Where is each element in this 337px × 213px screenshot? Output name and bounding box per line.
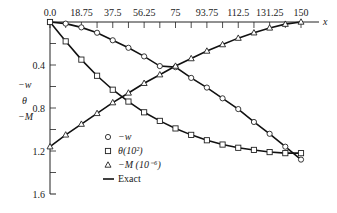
x-tick-label: 150 — [294, 7, 309, 18]
x-tick-label: 37.5 — [104, 7, 122, 18]
line-chart: x0.018.7537.556.257593.75112.5131.251500… — [0, 0, 337, 213]
y-tick-label: 1.6 — [33, 189, 46, 200]
x-tick-label: 93.75 — [196, 7, 219, 18]
square-marker — [173, 126, 178, 131]
circle-marker — [298, 157, 303, 162]
circle-marker — [236, 106, 241, 111]
square-marker — [47, 19, 52, 24]
circle-marker — [189, 75, 194, 80]
square-marker — [251, 147, 256, 152]
x-axis-label: x — [322, 16, 328, 27]
square-marker — [267, 149, 272, 154]
circle-marker — [63, 21, 68, 26]
square-marker — [189, 132, 194, 137]
square-marker — [79, 57, 84, 62]
square-marker — [94, 73, 99, 78]
circle-marker — [79, 25, 84, 30]
y-axis-label-theta: θ — [22, 95, 27, 106]
y-axis-label-m: −M — [18, 111, 34, 122]
circle-marker — [267, 131, 272, 136]
legend-label-m: −M (10⁻⁶) — [118, 159, 161, 171]
x-tick-label: 56.25 — [133, 7, 156, 18]
exact-curve — [50, 22, 301, 153]
circle-marker — [126, 45, 131, 50]
square-marker — [283, 151, 288, 156]
x-tick-label: 131.25 — [256, 7, 284, 18]
square-marker — [105, 148, 110, 153]
y-tick-label: 1.2 — [33, 146, 46, 157]
circle-marker — [105, 134, 110, 139]
y-tick-label: 0.8 — [33, 103, 46, 114]
y-axis-label-w: −w — [18, 79, 32, 90]
square-marker — [142, 110, 147, 115]
circle-marker — [220, 96, 225, 101]
square-marker — [220, 142, 225, 147]
x-tick-label: 0.0 — [44, 7, 57, 18]
square-marker — [157, 118, 162, 123]
circle-marker — [157, 63, 162, 68]
circle-marker — [142, 54, 147, 59]
circle-marker — [204, 85, 209, 90]
legend-label-w: −w — [118, 131, 132, 142]
square-marker — [204, 138, 209, 143]
chart-container: x0.018.7537.556.257593.75112.5131.251500… — [0, 0, 337, 213]
triangle-marker — [105, 162, 111, 167]
square-marker — [110, 87, 115, 92]
circle-marker — [94, 30, 99, 35]
square-marker — [63, 39, 68, 44]
circle-marker — [110, 38, 115, 43]
square-marker — [298, 151, 303, 156]
circle-marker — [251, 119, 256, 124]
x-tick-label: 18.75 — [70, 7, 93, 18]
square-marker — [236, 145, 241, 150]
legend-label-exact: Exact — [118, 173, 141, 184]
x-tick-label: 112.5 — [227, 7, 249, 18]
y-tick-label: 0.4 — [33, 60, 46, 71]
x-tick-label: 75 — [171, 7, 181, 18]
legend-label-theta: θ(10²) — [118, 145, 143, 157]
circle-marker — [283, 144, 288, 149]
square-marker — [126, 99, 131, 104]
exact-curve — [50, 22, 301, 160]
